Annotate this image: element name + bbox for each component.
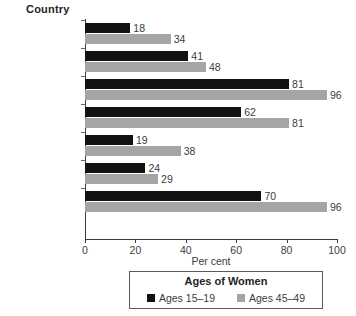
- legend-title: Ages of Women: [130, 275, 322, 287]
- bar-value-label: 41: [191, 51, 203, 61]
- bar[interactable]: [85, 107, 241, 117]
- plot-area: Central African Republic1834Chad4148Egyp…: [85, 20, 337, 239]
- bar[interactable]: [85, 34, 171, 44]
- x-axis-tick: [85, 239, 86, 243]
- bar[interactable]: [85, 174, 158, 184]
- category-group: Senegal2429: [85, 162, 337, 190]
- x-axis-title: Per cent: [85, 255, 337, 267]
- category-group: Egypt8196: [85, 78, 337, 106]
- bar-value-label: 96: [330, 202, 342, 212]
- x-axis-tick: [135, 239, 136, 243]
- bar-value-label: 24: [148, 163, 160, 173]
- legend-item-label: Ages 45–49: [249, 292, 305, 304]
- bar-value-label: 96: [330, 90, 342, 100]
- bar[interactable]: [85, 90, 327, 100]
- bar-value-label: 38: [184, 146, 196, 156]
- y-axis-tick: [81, 104, 85, 105]
- legend: Ages of Women Ages 15–19 Ages 45–49: [129, 271, 323, 309]
- bar[interactable]: [85, 191, 261, 201]
- bar[interactable]: [85, 163, 145, 173]
- bar-value-label: 19: [136, 135, 148, 145]
- category-group: Central African Republic1834: [85, 22, 337, 50]
- legend-item-label: Ages 15–19: [159, 292, 215, 304]
- y-axis-tick: [81, 132, 85, 133]
- y-axis-tick: [81, 48, 85, 49]
- legend-swatch-icon: [237, 294, 245, 302]
- y-axis-tick: [81, 20, 85, 21]
- category-group: Chad4148: [85, 50, 337, 78]
- bar-value-label: 18: [133, 23, 145, 33]
- bar-value-label: 29: [161, 174, 173, 184]
- bar[interactable]: [85, 118, 289, 128]
- bar[interactable]: [85, 62, 206, 72]
- category-group: Nigeria1938: [85, 134, 337, 162]
- bar[interactable]: [85, 146, 181, 156]
- bar[interactable]: [85, 135, 133, 145]
- legend-item-ages-45-49[interactable]: Ages 45–49: [237, 292, 305, 304]
- x-axis-tick: [186, 239, 187, 243]
- bar-value-label: 62: [244, 107, 256, 117]
- bar-value-label: 81: [292, 118, 304, 128]
- category-group: Ethiopia6281: [85, 106, 337, 134]
- legend-swatch-icon: [147, 294, 155, 302]
- y-axis-tick: [81, 188, 85, 189]
- bar[interactable]: [85, 23, 130, 33]
- category-group: Sierra Leone7096: [85, 190, 337, 218]
- bar-value-label: 34: [174, 34, 186, 44]
- bar-value-label: 48: [209, 62, 221, 72]
- x-axis-line: [85, 239, 338, 240]
- bar-value-label: 70: [264, 191, 276, 201]
- bar[interactable]: [85, 79, 289, 89]
- legend-item-ages-15-19[interactable]: Ages 15–19: [147, 292, 215, 304]
- y-axis-tick: [81, 160, 85, 161]
- y-axis-tick: [81, 76, 85, 77]
- y-axis-title: Country: [26, 3, 70, 15]
- bar-value-label: 81: [292, 79, 304, 89]
- legend-items: Ages 15–19 Ages 45–49: [130, 292, 322, 304]
- bar[interactable]: [85, 202, 327, 212]
- bar-chart: Country Central African Republic1834Chad…: [0, 0, 356, 316]
- bar[interactable]: [85, 51, 188, 61]
- x-axis-tick: [337, 239, 338, 243]
- x-axis-tick: [236, 239, 237, 243]
- x-axis-tick: [287, 239, 288, 243]
